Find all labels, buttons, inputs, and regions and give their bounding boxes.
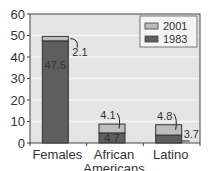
legend-label-1983: 1983 bbox=[163, 33, 187, 45]
x-category-label: Latino bbox=[153, 147, 188, 162]
x-axis-labels: FemalesAfricanAmericansLatino bbox=[32, 147, 188, 171]
y-axis-ticks: 0102030405060 bbox=[11, 7, 30, 151]
x-category-label: Females bbox=[32, 147, 82, 162]
data-label-2001: 4.1 bbox=[100, 109, 115, 121]
bar-1983 bbox=[42, 41, 68, 143]
legend-swatch-1983 bbox=[145, 36, 158, 42]
bar-1983 bbox=[156, 135, 182, 143]
y-tick-label: 40 bbox=[11, 50, 25, 65]
stacked-bar-chart: 0102030405060 FemalesAfricanAmericansLat… bbox=[0, 0, 208, 171]
y-tick-label: 60 bbox=[11, 7, 25, 22]
bar-2001 bbox=[42, 36, 68, 41]
legend-label-2001: 2001 bbox=[163, 20, 187, 32]
y-tick-label: 0 bbox=[18, 136, 25, 151]
data-label-1983: 47.5 bbox=[45, 59, 66, 71]
data-label-2001: 4.8 bbox=[157, 110, 172, 122]
y-tick-label: 50 bbox=[11, 28, 25, 43]
y-tick-label: 20 bbox=[11, 93, 25, 108]
y-tick-label: 30 bbox=[11, 71, 25, 86]
legend-swatch-2001 bbox=[145, 23, 158, 29]
data-label-1983: 4.7 bbox=[104, 132, 119, 144]
data-label-1983: 3.7 bbox=[184, 128, 199, 140]
x-category-label: Americans bbox=[83, 161, 145, 171]
data-label-2001: 2.1 bbox=[72, 46, 87, 58]
y-tick-label: 10 bbox=[11, 114, 25, 129]
legend: 20011983 bbox=[140, 16, 197, 47]
bar-2001 bbox=[156, 125, 182, 135]
x-category-label: African bbox=[94, 147, 134, 162]
